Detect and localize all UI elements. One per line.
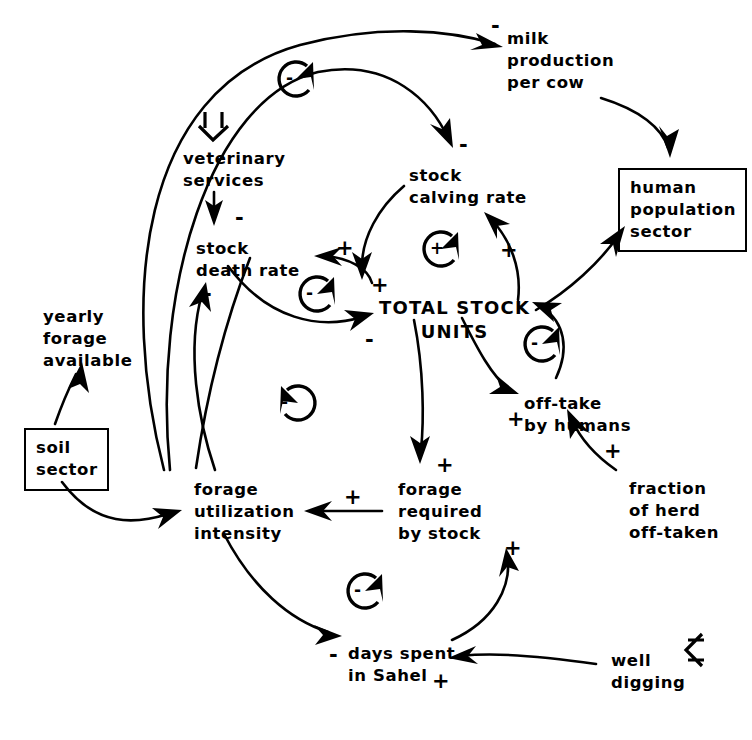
sign-death-plus: +	[336, 238, 354, 259]
sign-milk-in: -	[491, 16, 500, 37]
node-milk-production-per-cow: milk production per cow	[507, 28, 614, 93]
node-forage-utilization-intensity: forage utilization intensity	[194, 479, 295, 544]
sign-tsu-offtake: -	[365, 330, 374, 351]
causal-loop-diagram: milk production per cow veterinary servi…	[0, 0, 752, 740]
node-well-digging: well digging	[611, 650, 686, 694]
sign-offtake-plus: +	[507, 409, 525, 430]
loop-polarity-death: -	[306, 285, 313, 302]
sign-tsu-death: -	[203, 284, 212, 305]
node-fraction-of-herd-off-taken: fraction of herd off-taken	[629, 478, 719, 543]
node-forage-required-by-stock: forage required by stock	[398, 479, 482, 544]
sign-required-in: +	[436, 455, 454, 476]
sign-days-req: +	[504, 538, 522, 559]
sign-calving-in: -	[459, 135, 468, 156]
sign-humanpop-in: -	[548, 294, 557, 315]
loop-polarity-top: -	[286, 70, 293, 87]
node-stock-death-rate: stock death rate	[196, 238, 300, 282]
sign-well-days: +	[432, 671, 450, 692]
hollow-arrow-down-icon	[199, 112, 228, 140]
node-veterinary-services: veterinary services	[183, 148, 286, 192]
loop-polarity-bottom: -	[354, 582, 361, 599]
sign-tsu-calving: +	[371, 275, 389, 296]
sign-calving-plus: +	[500, 240, 518, 261]
sign-fraction-in: +	[604, 441, 622, 462]
link-soil-to-forageavailable	[55, 362, 89, 424]
sign-days-in: -	[329, 645, 338, 666]
node-off-take-by-humans: off-take by humans	[524, 393, 631, 437]
link-fui-to-death	[189, 282, 215, 470]
sign-vet-death: -	[235, 208, 244, 229]
node-yearly-forage-available: yearly forage available	[43, 306, 133, 371]
hollow-arrow-left-icon	[686, 634, 704, 666]
node-soil-sector: soil sector	[24, 428, 109, 491]
link-vet-to-death	[205, 192, 223, 226]
node-stock-calving-rate: stock calving rate	[409, 165, 527, 209]
loop-polarity-calving: +	[430, 240, 444, 257]
link-well-to-days	[448, 646, 596, 664]
link-fui-to-days	[224, 534, 342, 645]
node-total-stock-units: TOTAL STOCK UNITS	[379, 296, 530, 344]
sign-fui-in: +	[344, 487, 362, 508]
link-days-to-required	[452, 548, 519, 640]
loop-polarity-offtake: -	[531, 335, 538, 352]
node-human-population-sector: human population sector	[618, 168, 747, 252]
link-required-to-fui	[304, 501, 382, 521]
loop-polarity-mid-left: -	[281, 394, 288, 411]
link-milk-to-humanpop	[601, 98, 679, 158]
